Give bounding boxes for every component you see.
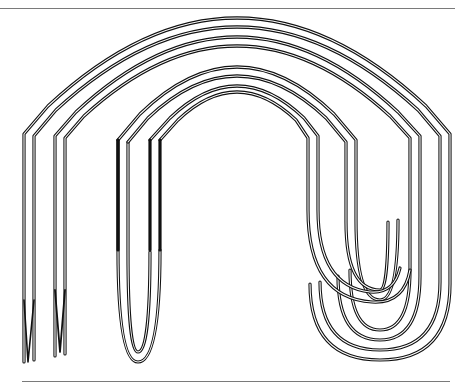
outer-track-group	[24, 18, 450, 362]
left-tapered-tips	[24, 290, 65, 362]
track-diagram	[0, 0, 469, 392]
inner-track-group	[118, 67, 410, 362]
diagram-canvas	[0, 0, 469, 392]
